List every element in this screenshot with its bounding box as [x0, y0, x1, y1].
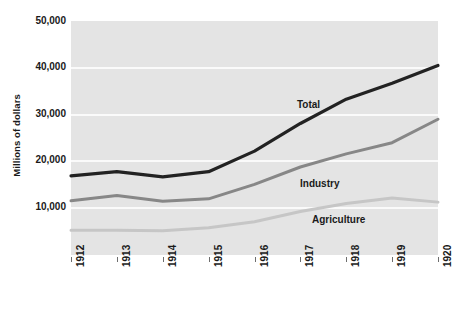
total-line [71, 65, 438, 176]
line-chart: Millions of dollars 50,000 40,000 30,000… [0, 0, 458, 311]
x-tick-mark-1912 [71, 257, 72, 262]
x-tick-label-1912: 1912 [75, 245, 86, 267]
x-tick-label-1913: 1913 [121, 245, 132, 267]
x-tick-label-1919: 1919 [396, 245, 407, 267]
x-tick-label-1914: 1914 [167, 245, 178, 267]
y-tick-label-50000: 50,000 [18, 15, 66, 26]
agriculture-line [71, 198, 438, 231]
x-tick-mark-1918 [346, 257, 347, 262]
x-tick-mark-1913 [117, 257, 118, 262]
plot-area: Total Industry Agriculture [71, 21, 438, 255]
x-tick-label-1916: 1916 [259, 245, 270, 267]
x-tick-label-1920: 1920 [442, 245, 453, 267]
x-tick-mark-1917 [300, 257, 301, 262]
x-tick-mark-1920 [438, 257, 439, 262]
x-tick-label-1918: 1918 [350, 245, 361, 267]
x-tick-mark-1916 [255, 257, 256, 262]
x-tick-label-1915: 1915 [213, 245, 224, 267]
series-annotation-agriculture: Agriculture [312, 214, 365, 225]
y-axis-tick-labels: 50,000 40,000 30,000 20,000 10,000 [14, 0, 66, 311]
industry-line [71, 119, 438, 201]
x-tick-label-1917: 1917 [304, 245, 315, 267]
y-tick-label-30000: 30,000 [18, 108, 66, 119]
y-tick-label-20000: 20,000 [18, 154, 66, 165]
series-lines [71, 21, 438, 255]
y-tick-label-10000: 10,000 [18, 201, 66, 212]
x-tick-mark-1914 [163, 257, 164, 262]
y-tick-label-40000: 40,000 [18, 61, 66, 72]
x-tick-mark-1919 [392, 257, 393, 262]
series-annotation-total: Total [297, 99, 320, 110]
x-tick-mark-1915 [209, 257, 210, 262]
series-annotation-industry: Industry [300, 178, 339, 189]
